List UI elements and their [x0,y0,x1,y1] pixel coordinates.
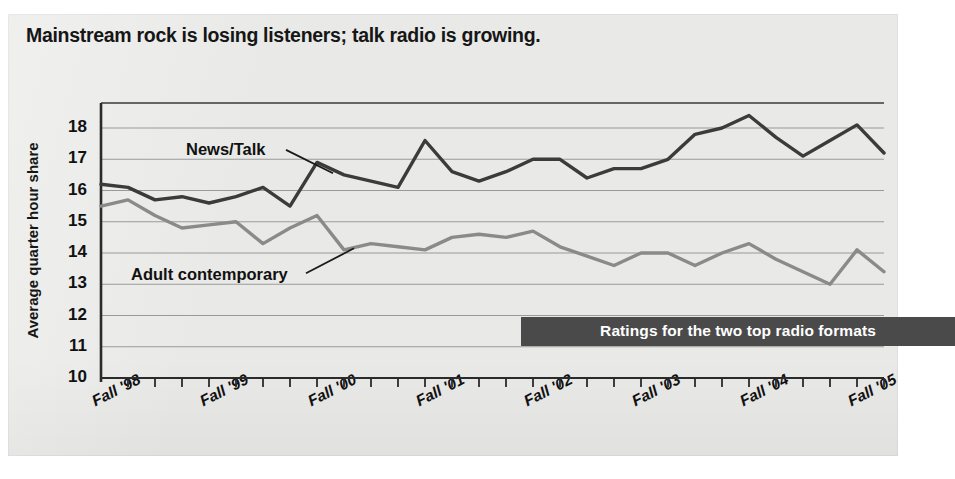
chart-banner: Ratings for the two top radio formats [521,317,955,346]
x-tickmarks [128,378,884,387]
annotation-leader-lines [286,150,354,273]
series-label-adult-contemporary: Adult contemporary [131,265,288,284]
series-label-news-talk: News/Talk [186,140,265,159]
